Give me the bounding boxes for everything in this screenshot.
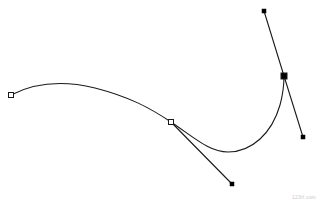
control-point-end-in[interactable]: [262, 9, 266, 13]
bezier-path-svg[interactable]: [0, 0, 318, 202]
anchor-point-middle[interactable]: [169, 120, 174, 125]
control-point-end-out[interactable]: [301, 135, 305, 139]
bezier-curve-path[interactable]: [11, 76, 284, 152]
handle-line-right-anchor-lower[interactable]: [284, 76, 303, 137]
anchor-point-end-selected[interactable]: [281, 73, 287, 79]
vector-editor-canvas[interactable]: 123rf.com: [0, 0, 318, 202]
anchor-point-start[interactable]: [9, 93, 14, 98]
control-point-middle-out[interactable]: [230, 182, 234, 186]
watermark-label: 123rf.com: [292, 194, 316, 200]
handle-line-middle-anchor[interactable]: [171, 122, 232, 184]
handle-line-right-anchor-upper[interactable]: [264, 11, 284, 76]
